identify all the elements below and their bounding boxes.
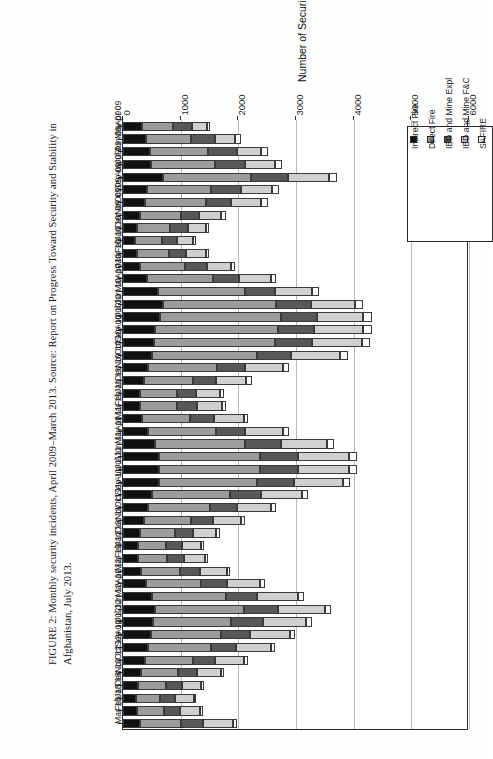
bar-segment — [123, 223, 137, 232]
bar-segment — [207, 262, 231, 271]
bar-segment — [217, 363, 245, 372]
bar-row — [123, 617, 469, 626]
bar-segment — [188, 223, 206, 232]
bar-segment — [201, 579, 226, 588]
bar-segment — [311, 300, 355, 309]
bar-segment — [231, 198, 261, 207]
bar-segment — [181, 211, 199, 220]
x-axis-tick-label: 2000 — [236, 94, 247, 115]
bar-segment — [140, 401, 177, 410]
bar-segment — [193, 236, 196, 245]
bar-segment — [298, 452, 349, 461]
bar-row — [123, 401, 469, 410]
bar-segment — [123, 694, 136, 703]
bar-segment — [283, 427, 289, 436]
bar-segment — [291, 351, 339, 360]
bar-segment — [213, 274, 240, 283]
bar-segment — [154, 338, 275, 347]
bar-segment — [141, 567, 179, 576]
bar-segment — [278, 605, 325, 614]
bar-segment — [276, 300, 311, 309]
bar-row — [123, 630, 469, 639]
bar-segment — [312, 338, 362, 347]
bar-segment — [288, 173, 330, 182]
bar-segment — [271, 643, 276, 652]
x-axis-tick-label: 1000 — [178, 94, 189, 115]
bar-segment — [166, 681, 182, 690]
bar-row — [123, 389, 469, 398]
bar-segment — [162, 236, 177, 245]
bar-segment — [263, 617, 307, 626]
bar-segment — [216, 528, 219, 537]
bar-row — [123, 567, 469, 576]
bar-segment — [142, 122, 173, 131]
bar-segment — [140, 262, 185, 271]
bar-segment — [197, 401, 222, 410]
chart-area: Number of Security Incidents 01000200030… — [56, 52, 476, 742]
bar-segment — [185, 262, 207, 271]
bar-segment — [201, 541, 204, 550]
bar-segment — [241, 516, 245, 525]
bar-segment — [245, 363, 283, 372]
bar-row — [123, 287, 469, 296]
bar-segment — [226, 592, 257, 601]
bar-segment — [123, 134, 146, 143]
bar-segment — [123, 719, 140, 728]
bar-segment — [221, 630, 250, 639]
bar-segment — [355, 300, 363, 309]
bar-segment — [201, 681, 204, 690]
bar-segment — [278, 325, 315, 334]
bar-segment — [197, 668, 221, 677]
bar-segment — [141, 668, 178, 677]
bar-segment — [123, 656, 145, 665]
bar-segment — [140, 719, 180, 728]
bar-segment — [271, 503, 276, 512]
bar-row — [123, 592, 469, 601]
bar-segment — [230, 490, 261, 499]
bar-segment — [123, 147, 150, 156]
bar-segment — [245, 439, 281, 448]
bar-segment — [137, 249, 169, 258]
bar-segment — [362, 338, 371, 347]
legend-label: Indirect Fire — [410, 104, 420, 149]
bar-segment — [155, 439, 245, 448]
bar-segment — [153, 617, 231, 626]
bar-segment — [123, 630, 151, 639]
bar-segment — [123, 452, 159, 461]
bar-segment — [257, 351, 292, 360]
bar-segment — [123, 363, 148, 372]
bar-row — [123, 541, 469, 550]
bar-segment — [343, 478, 350, 487]
bar-segment — [260, 579, 265, 588]
bar-segment — [281, 439, 327, 448]
bar-segment — [349, 465, 356, 474]
bar-segment — [222, 401, 226, 410]
legend-label: IED and Mine F&C — [461, 77, 471, 149]
bar-segment — [152, 592, 226, 601]
bar-segment — [200, 567, 227, 576]
bar-segment — [211, 643, 236, 652]
bar-segment — [123, 351, 152, 360]
bar-segment — [123, 122, 142, 131]
bar-row — [123, 452, 469, 461]
legend-label: Direct Fire — [427, 109, 437, 149]
bar-segment — [314, 325, 362, 334]
bar-segment — [215, 656, 244, 665]
bar-row — [123, 694, 469, 703]
bar-segment — [312, 287, 319, 296]
bar-segment — [123, 528, 140, 537]
bar-segment — [231, 262, 236, 271]
bar-segment — [251, 173, 288, 182]
bar-segment — [207, 122, 210, 131]
bar-segment — [155, 325, 277, 334]
bar-segment — [261, 198, 267, 207]
bar-segment — [221, 668, 224, 677]
bar-segment — [177, 401, 197, 410]
bar-row — [123, 351, 469, 360]
bar-row — [123, 656, 469, 665]
bar-segment — [244, 656, 248, 665]
bar-segment — [244, 414, 249, 423]
bar-segment — [123, 300, 163, 309]
bar-segment — [177, 389, 195, 398]
bar-segment — [250, 630, 290, 639]
